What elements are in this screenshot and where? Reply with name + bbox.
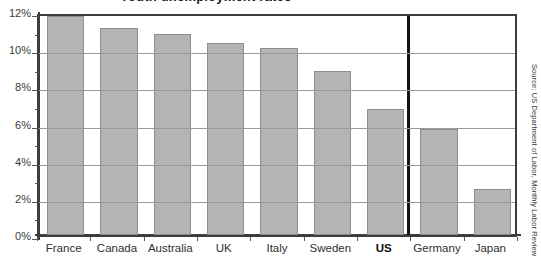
x-axis-tick (357, 237, 358, 241)
x-axis-label-france: France (37, 241, 90, 255)
x-axis-tick (250, 237, 251, 241)
y-axis-tick (32, 16, 39, 17)
gridline (39, 128, 515, 129)
chart-title-clipped: Youth unemployment rates (0, 0, 541, 9)
y-axis-minor-tick (35, 183, 39, 184)
x-axis-tick (197, 237, 198, 241)
x-axis-label-japan: Japan (464, 241, 517, 255)
y-axis-tick (32, 128, 39, 129)
y-axis-labels: 0%2%4%6%8%10%12% (0, 0, 34, 267)
gridline (39, 53, 515, 54)
y-axis-tick-label: 10% (9, 45, 31, 56)
y-axis-tick (32, 165, 39, 166)
x-axis-tick (304, 237, 305, 241)
x-axis-tick (90, 237, 91, 241)
y-axis-tick (32, 90, 39, 91)
bar-italy[interactable] (260, 48, 297, 235)
gridline (39, 90, 515, 91)
x-axis-tick (410, 237, 411, 241)
y-axis-tick (32, 53, 39, 54)
bar-chart: Youth unemployment rates 0%2%4%6%8%10%12… (0, 0, 541, 267)
x-axis-tick (37, 237, 38, 241)
x-axis-label-uk: UK (197, 241, 250, 255)
y-axis-minor-tick (35, 220, 39, 221)
y-axis-tick-label: 2% (15, 194, 31, 205)
gridline (39, 165, 515, 166)
y-axis-tick-label: 4% (15, 157, 31, 168)
gridline (39, 202, 515, 203)
x-axis-label-canada: Canada (90, 241, 143, 255)
y-axis-tick-label: 0% (15, 231, 31, 242)
y-axis-minor-tick (35, 109, 39, 110)
y-axis-tick-label: 8% (15, 82, 31, 93)
y-axis-minor-tick (35, 146, 39, 147)
x-axis-label-us: US (357, 241, 410, 255)
x-axis-tick (144, 237, 145, 241)
x-axis-label-italy: Italy (250, 241, 303, 255)
bar-canada[interactable] (100, 28, 137, 235)
y-axis-tick (32, 202, 39, 203)
source-text: Source: US Department of Labor, Monthly … (530, 64, 539, 256)
chart-title: Youth unemployment rates (120, 0, 291, 4)
bar-germany[interactable] (420, 129, 457, 235)
bar-uk[interactable] (207, 43, 244, 235)
plot-area (37, 14, 517, 237)
x-axis-label-sweden: Sweden (304, 241, 357, 255)
bar-sweden[interactable] (314, 71, 351, 235)
x-axis-tick (517, 237, 518, 241)
y-axis-tick-label: 6% (15, 120, 31, 131)
bar-australia[interactable] (154, 34, 191, 235)
x-axis-labels: FranceCanadaAustraliaUKItalySwedenUSGerm… (37, 241, 517, 261)
source-credit: Source: US Department of Labor, Monthly … (528, 64, 540, 254)
bar-japan[interactable] (474, 189, 511, 235)
y-axis-tick-label: 12% (9, 8, 31, 19)
y-axis-minor-tick (35, 72, 39, 73)
x-axis-label-germany: Germany (410, 241, 463, 255)
x-axis-label-australia: Australia (144, 241, 197, 255)
y-axis-minor-tick (35, 35, 39, 36)
x-axis-tick (464, 237, 465, 241)
